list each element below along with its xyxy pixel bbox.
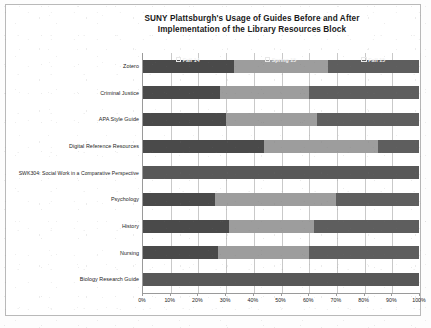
bar-segment-fall-15: [309, 246, 419, 259]
chart-title-line-1: SUNY Plattsburgh's Usage of Guides Befor…: [102, 14, 402, 25]
x-tick-label: 60%: [303, 297, 314, 303]
bar-segment-spring-15: [220, 86, 308, 99]
bar-segment-spring-15: [215, 193, 336, 206]
bar-row: [143, 160, 419, 187]
x-tick-label: 100%: [412, 297, 426, 303]
category-label: SWK304: Social Work in a Comparative Per…: [0, 170, 139, 176]
bar-segment-fall-15: [317, 113, 419, 126]
x-tick-label: 30%: [220, 297, 231, 303]
bar-segment-fall-14: [143, 140, 264, 153]
x-tick-10: [170, 293, 171, 296]
stacked-bar: [143, 246, 419, 259]
scanned-page: SUNY Plattsburgh's Usage of Guides Befor…: [0, 0, 431, 328]
category-label: Biology Research Guide: [0, 276, 139, 282]
bar-segment-fall-15: [378, 140, 419, 153]
bar-segment-spring-15: [264, 140, 377, 153]
bar-segment-fall-14: [143, 246, 218, 259]
x-tick-label: 40%: [247, 297, 258, 303]
x-tick-60: [308, 293, 309, 296]
x-tick-80: [364, 293, 365, 296]
bar-segment-fall-15: [314, 220, 419, 233]
gridline-100: [420, 53, 421, 293]
x-tick-0: [142, 293, 143, 296]
bar-row: [143, 240, 419, 267]
x-tick-20: [197, 293, 198, 296]
chart-frame: SUNY Plattsburgh's Usage of Guides Befor…: [5, 4, 421, 316]
stacked-bar: [143, 220, 419, 233]
bar-row: [143, 53, 419, 80]
x-tick-label: 0%: [138, 297, 146, 303]
stacked-bar: [143, 60, 419, 73]
bar-row: [143, 266, 419, 293]
x-tick-70: [336, 293, 337, 296]
plot-area: [142, 53, 419, 293]
category-label: History: [0, 223, 139, 229]
chart-title-line-2: Implementation of the Library Resources …: [102, 25, 402, 36]
chart-title: SUNY Plattsburgh's Usage of Guides Befor…: [102, 14, 402, 35]
x-tick-90: [391, 293, 392, 296]
bar-segment-fall-14: [143, 220, 229, 233]
x-tick-label: 90%: [386, 297, 397, 303]
x-tick-label: 10%: [164, 297, 175, 303]
stacked-bar: [143, 113, 419, 126]
bar-segment-fall-14: [143, 113, 226, 126]
bar-row: [143, 213, 419, 240]
bar-row: [143, 133, 419, 160]
bar-segment-fall-14: [143, 60, 234, 73]
stacked-bar: [143, 193, 419, 206]
bar-segment-fall-14: [143, 193, 215, 206]
stacked-bar: [143, 166, 419, 179]
x-tick-30: [225, 293, 226, 296]
bar-segment-spring-15: [234, 60, 328, 73]
x-tick-label: 50%: [275, 297, 286, 303]
bar-row: [143, 106, 419, 133]
x-tick-50: [281, 293, 282, 296]
bar-segment-fall-15: [143, 273, 419, 286]
category-label: Nursing: [0, 250, 139, 256]
x-tick-100: [419, 293, 420, 296]
stacked-bar: [143, 140, 419, 153]
stacked-bar: [143, 273, 419, 286]
x-tick-40: [253, 293, 254, 296]
category-label: APA Style Guide: [0, 116, 139, 122]
bar-segment-fall-14: [143, 86, 220, 99]
x-axis: 0%10%20%30%40%50%60%70%80%90%100%: [142, 293, 419, 294]
category-label: Zotero: [0, 63, 139, 69]
bar-segment-fall-15: [309, 86, 419, 99]
bar-segment-spring-15: [229, 220, 315, 233]
bar-segment-fall-15: [143, 166, 419, 179]
x-tick-label: 80%: [358, 297, 369, 303]
category-label: Criminal Justice: [0, 90, 139, 96]
bar-segment-spring-15: [218, 246, 309, 259]
bar-segment-fall-15: [336, 193, 419, 206]
category-label: Psychology: [0, 196, 139, 202]
bar-row: [143, 186, 419, 213]
bar-row: [143, 80, 419, 107]
stacked-bar: [143, 86, 419, 99]
bar-segment-spring-15: [226, 113, 317, 126]
x-tick-label: 70%: [331, 297, 342, 303]
category-label: Digital Reference Resources: [0, 143, 139, 149]
x-tick-label: 20%: [192, 297, 203, 303]
bar-segment-fall-15: [328, 60, 419, 73]
